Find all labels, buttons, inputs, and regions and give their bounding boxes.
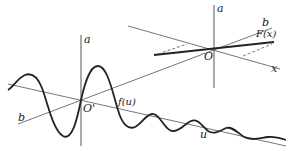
- lower-b-label: b: [18, 112, 25, 123]
- dashed-projection-right: [243, 44, 272, 56]
- lower-origin-label: O': [83, 103, 95, 114]
- x-label: x: [271, 63, 277, 74]
- lower-a-label: a: [84, 34, 91, 45]
- upper-origin-label: O: [204, 51, 213, 62]
- f-label: f(u): [118, 97, 136, 107]
- upper-b-label: b: [262, 17, 269, 28]
- diagram-canvas: a b F(x) O x a b O' f(u) u: [0, 0, 289, 151]
- u-label: u: [200, 129, 207, 140]
- b-axis-shared: [18, 28, 272, 124]
- function-f-curve: [8, 66, 286, 140]
- upper-a-label: a: [217, 3, 224, 14]
- F-label: F(x): [256, 29, 276, 39]
- diagram-svg: [0, 0, 289, 151]
